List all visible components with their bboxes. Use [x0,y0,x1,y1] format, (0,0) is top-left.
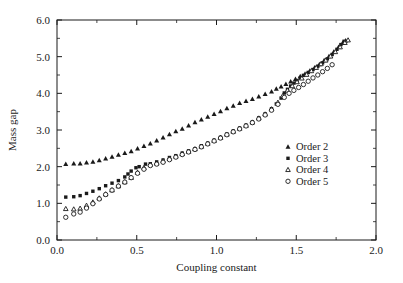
data-point [231,130,235,134]
data-point [292,88,296,92]
data-point [91,202,95,206]
data-point [97,197,101,201]
y-axis-tick-label: 0.0 [36,234,50,246]
data-point [180,152,184,156]
data-point [104,184,107,187]
data-point [110,188,114,192]
data-point [250,120,254,124]
data-point [123,180,127,184]
y-axis-tick-label: 6.0 [36,14,50,26]
data-point [218,136,222,140]
data-point [116,184,120,188]
data-point [78,194,81,197]
data-point [167,158,171,162]
y-axis-tick-label: 5.0 [36,51,50,63]
data-point [110,181,113,184]
data-point [316,73,320,77]
data-point [161,160,165,164]
legend-marker-4 [286,179,290,183]
data-point [206,142,210,146]
data-point [237,127,241,131]
data-point [84,206,88,210]
data-point [263,113,267,117]
legend-label-1: Order 2 [296,141,328,152]
data-point [129,169,132,172]
x-axis-tick-label: 0.5 [130,244,144,256]
data-point [72,212,76,216]
y-axis-tick-label: 1.0 [36,197,50,209]
data-point [155,162,159,166]
data-point [311,76,315,80]
data-point [193,147,197,151]
data-point [78,210,82,214]
x-axis-tick-label: 0.0 [50,244,64,256]
x-axis-tick-label: 2.0 [369,244,383,256]
data-point [123,175,126,178]
y-axis-tick-label: 2.0 [36,161,50,173]
data-point [301,82,305,86]
data-point [282,95,286,99]
data-point [257,117,261,121]
data-point [325,66,329,70]
chart-figure: 0.00.51.01.52.00.01.02.03.04.05.06.0 Ord… [0,0,403,283]
data-point [91,190,94,193]
data-point [137,165,140,168]
data-point [225,133,229,137]
data-point [142,167,146,171]
data-point [64,215,68,219]
data-point [330,63,334,67]
data-point [320,70,324,74]
data-point [129,175,133,179]
data-point [276,102,280,106]
scatter-plot-canvas: 0.00.51.01.52.00.01.02.03.04.05.06.0 Ord… [0,0,403,283]
data-point [85,192,88,195]
legend-label-3: Order 4 [296,164,329,175]
y-axis-title: Mass gap [6,109,18,151]
legend-marker-2 [286,157,289,160]
x-axis-title: Coupling constant [176,261,256,273]
data-point [244,124,248,128]
data-point [199,145,203,149]
x-axis-tick-label: 1.0 [210,244,224,256]
y-axis-tick-label: 3.0 [36,124,50,136]
legend-label-2: Order 3 [296,153,328,164]
data-point [296,85,300,89]
data-point [174,155,178,159]
data-point [269,108,273,112]
x-axis-tick-label: 1.5 [289,244,303,256]
legend-label-4: Order 5 [296,176,328,187]
data-point [287,91,291,95]
data-point [135,171,139,175]
data-point [148,163,152,167]
data-point [134,166,137,169]
data-point [72,195,75,198]
data-point [103,192,107,196]
y-axis-tick-label: 4.0 [36,87,50,99]
data-point [306,79,310,83]
data-point [212,139,216,143]
data-point [117,179,120,182]
data-point [186,150,190,154]
data-point [126,172,129,175]
data-point [98,187,101,190]
data-point [64,195,67,198]
